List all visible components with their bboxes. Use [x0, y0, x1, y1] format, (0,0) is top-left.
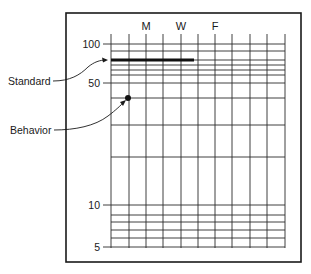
standard-arrowhead-icon	[102, 58, 108, 63]
y-tick-10: 10	[88, 199, 100, 211]
day-label-friday: F	[212, 20, 219, 32]
horizontal-gridlines	[103, 44, 285, 247]
day-label-monday: M	[141, 20, 150, 32]
y-tick-50: 50	[88, 77, 100, 89]
y-tick-100: 100	[82, 38, 100, 50]
day-label-wednesday: W	[176, 20, 187, 32]
y-tick-5: 5	[94, 241, 100, 253]
behavior-annotation-label: Behavior	[10, 124, 52, 136]
chart-frame	[66, 13, 301, 262]
standard-annotation-label: Standard	[8, 75, 51, 87]
chart-canvas: 100 50 10 5 M W F Standard Behavior	[0, 0, 311, 274]
behavior-arrow	[54, 102, 124, 130]
vertical-gridlines	[111, 34, 285, 248]
